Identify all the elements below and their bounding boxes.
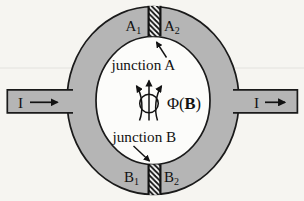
flux-label: Φ(B) — [167, 94, 201, 113]
junction-b-label: junction B — [112, 128, 177, 145]
junction-a-label: junction A — [111, 56, 176, 73]
junction-b-barrier — [149, 164, 161, 195]
junction-a-barrier — [149, 6, 161, 36]
squid-diagram: A1 A2 B1 B2 junction A junction B Φ(B) I… — [0, 0, 304, 201]
current-label-left: I — [18, 94, 23, 111]
current-label-right: I — [254, 94, 259, 111]
right-lead — [233, 90, 297, 113]
